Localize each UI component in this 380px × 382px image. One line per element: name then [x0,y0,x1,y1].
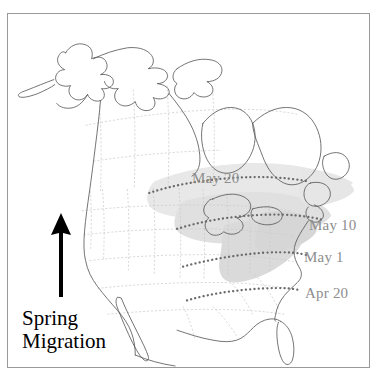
hudson-bay-west [169,94,200,177]
shading-east-tail [299,168,354,205]
north-arrow-icon [44,211,78,299]
isochrone-label-apr20: Apr 20 [305,286,348,301]
isochrone-line-apr20 [187,288,300,300]
isochrone-label-may1: May 1 [304,250,344,265]
florida-outline [277,321,294,364]
canada-north-coast [94,48,170,111]
legend-caption: Spring Migration [22,307,106,352]
aleutian-tail [18,80,54,98]
map-frame: May 20 May 10 May 1 Apr 20 Spring Migrat… [7,13,370,368]
arctic-islands-upper [173,59,222,99]
alaska-outline [56,44,114,101]
figure-root: May 20 May 10 May 1 Apr 20 Spring Migrat… [0,0,380,382]
isochrone-label-may20: May 20 [192,171,239,186]
baja-outline [116,297,148,360]
alaska-south-coast [57,95,88,109]
isochrone-label-may10: May 10 [309,218,356,233]
